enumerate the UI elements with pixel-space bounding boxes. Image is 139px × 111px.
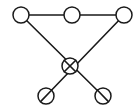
node-layer [13,7,132,104]
node-top-left[interactable] [13,7,29,23]
node-center-crossed[interactable] [62,58,78,74]
node-bottom-left-group[interactable] [38,88,54,104]
edge-layer [21,15,124,98]
node-top-right[interactable] [116,7,132,23]
diagram-canvas [0,0,139,111]
node-bottom-right-group[interactable] [95,88,111,104]
node-top-middle[interactable] [64,7,80,23]
graph-figure [0,0,139,111]
edge-topright-to-bottomleft [44,15,124,98]
edge-topleft-to-bottomright [21,15,105,98]
